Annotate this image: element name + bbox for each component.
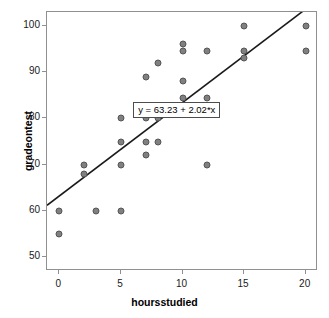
y-axis-tick-label: 70 <box>14 158 40 169</box>
data-point <box>56 231 63 238</box>
plot-area: y = 63.23 + 2.02*x <box>46 11 317 270</box>
data-point <box>93 207 100 214</box>
data-point <box>117 115 124 122</box>
data-point <box>179 48 186 55</box>
data-point <box>142 152 149 159</box>
data-point <box>117 138 124 145</box>
y-axis-label-container: gradeontest <box>0 0 18 281</box>
data-point <box>56 207 63 214</box>
x-axis-tick-label: 10 <box>167 278 197 289</box>
regression-equation-label: y = 63.23 + 2.02*x <box>133 102 220 118</box>
x-axis-tick-label: 15 <box>228 278 258 289</box>
data-point <box>80 161 87 168</box>
y-axis-tick-label: 80 <box>14 111 40 122</box>
data-point <box>154 59 161 66</box>
data-point <box>302 48 309 55</box>
data-point <box>241 48 248 55</box>
data-point <box>179 94 186 101</box>
y-axis-tick-label: 90 <box>14 65 40 76</box>
x-axis-tick-mark <box>120 270 121 274</box>
data-point <box>117 161 124 168</box>
x-axis-tick-mark <box>58 270 59 274</box>
data-point <box>154 138 161 145</box>
data-point <box>179 78 186 85</box>
data-point <box>179 41 186 48</box>
x-axis-tick-label: 5 <box>105 278 135 289</box>
data-point <box>241 55 248 62</box>
x-axis-tick-mark <box>243 270 244 274</box>
y-axis-tick-label: 50 <box>14 250 40 261</box>
data-point <box>204 161 211 168</box>
x-axis-tick-label: 0 <box>43 278 73 289</box>
y-axis-tick-label: 100 <box>14 19 40 30</box>
scatter-plot-figure: gradeontest 5060708090100 05101520 y = 6… <box>0 0 329 318</box>
x-axis-label: hoursstudied <box>0 296 329 308</box>
data-point <box>204 48 211 55</box>
data-point <box>302 22 309 29</box>
data-point <box>204 94 211 101</box>
data-point <box>142 138 149 145</box>
y-axis-tick-label: 60 <box>14 204 40 215</box>
data-point <box>142 73 149 80</box>
data-point <box>117 207 124 214</box>
x-axis-tick-mark <box>182 270 183 274</box>
data-point <box>80 170 87 177</box>
data-point <box>241 22 248 29</box>
x-axis-tick-mark <box>305 270 306 274</box>
x-axis-tick-label: 20 <box>290 278 320 289</box>
